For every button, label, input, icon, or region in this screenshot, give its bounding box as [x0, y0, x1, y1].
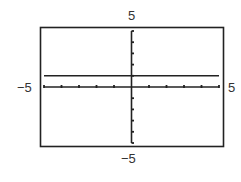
graph-plot — [0, 0, 241, 182]
axes — [44, 31, 219, 143]
